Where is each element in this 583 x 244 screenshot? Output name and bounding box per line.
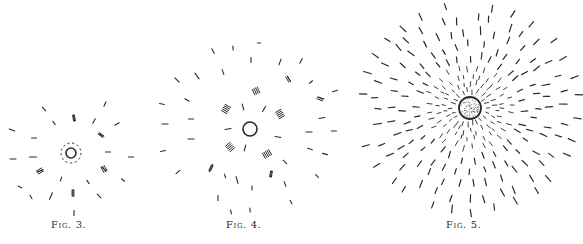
figure-5-radiating-pattern xyxy=(359,4,582,217)
figure-4-caption: Fig. 4. xyxy=(226,219,261,230)
figure-3-radiating-pattern xyxy=(9,102,133,216)
illustration-plate: Fig. 3. Fig. 4. Fig. 5. xyxy=(0,0,583,244)
figure-3-caption: Fig. 3. xyxy=(51,219,86,230)
figure-4-radiating-pattern xyxy=(160,43,338,214)
figure-5-caption: Fig. 5. xyxy=(446,219,481,230)
figures-canvas xyxy=(0,0,583,244)
